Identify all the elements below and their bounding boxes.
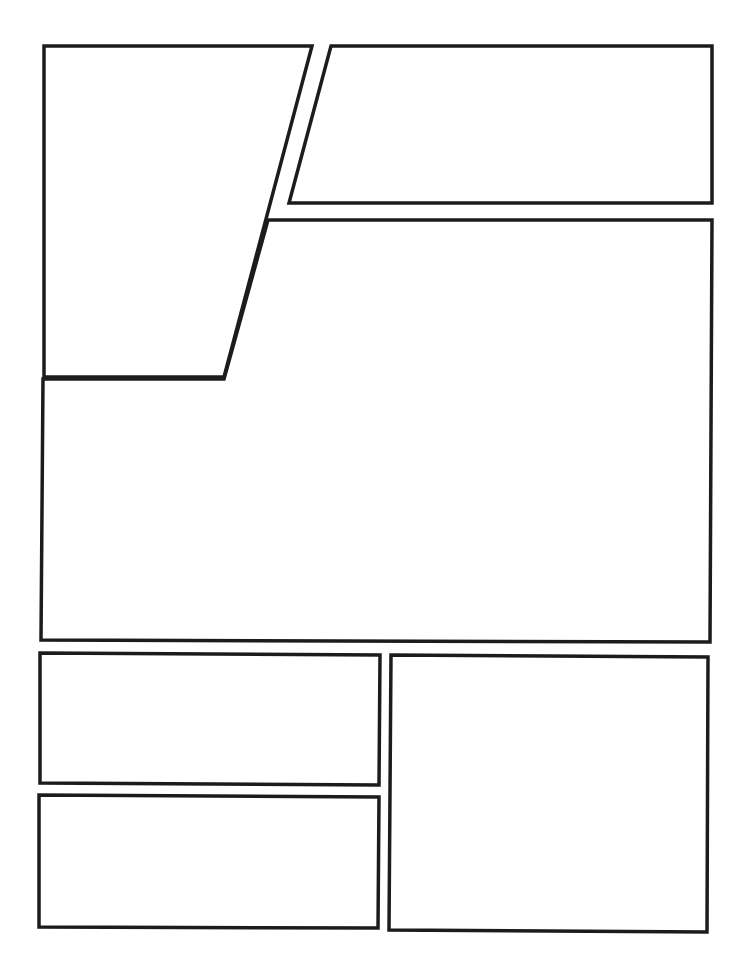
panel-2 [289, 46, 712, 203]
panel-5 [39, 795, 379, 928]
comic-page [0, 0, 745, 972]
panel-6 [389, 655, 708, 932]
panel-layout [0, 0, 745, 972]
panel-4 [40, 653, 380, 785]
